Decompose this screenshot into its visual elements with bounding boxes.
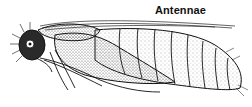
thorax: [38, 24, 100, 41]
antennae-label: Antennae: [155, 4, 206, 16]
insect-pupa-drawing: [0, 0, 252, 107]
